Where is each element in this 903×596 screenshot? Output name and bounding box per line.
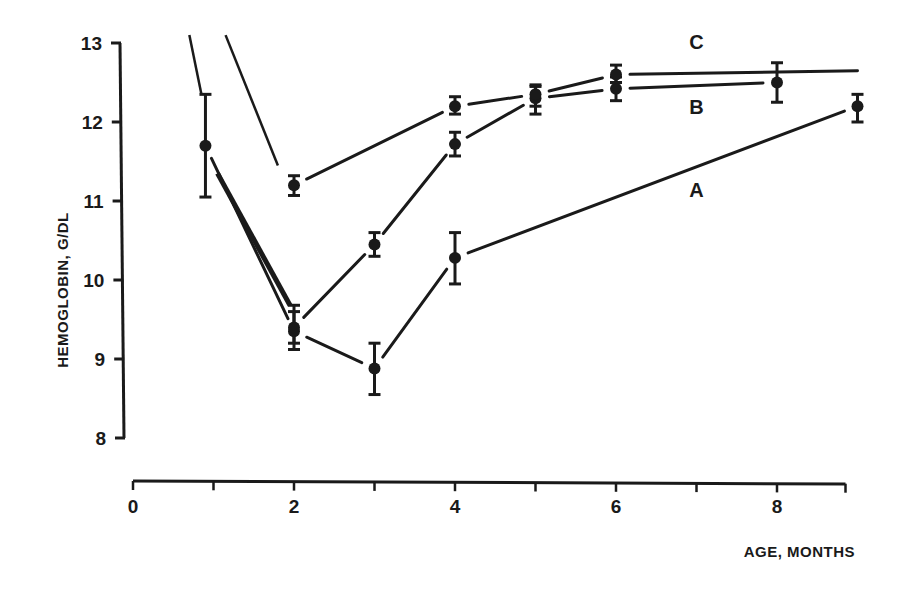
lead-in-line xyxy=(226,35,278,165)
y-tick-label: 9 xyxy=(95,349,106,370)
hemoglobin-chart: 8910111213 02468 ABC HEMOGLOBIN, G/DL AG… xyxy=(0,0,903,596)
series-segment xyxy=(307,112,443,179)
data-point-marker xyxy=(199,140,211,152)
data-point-marker xyxy=(610,83,622,95)
x-axis: 02468 xyxy=(128,481,846,517)
data-point-marker xyxy=(288,321,300,333)
series-label-b: B xyxy=(689,96,703,118)
series-b: B xyxy=(218,63,783,343)
data-point-marker xyxy=(369,362,381,374)
series-segment xyxy=(467,105,523,137)
series-segment xyxy=(630,83,763,88)
series-a: A xyxy=(189,35,863,394)
x-tick-label: 0 xyxy=(128,496,139,517)
y-axis: 8910111213 xyxy=(81,33,125,449)
series-segment xyxy=(469,96,522,104)
x-tick-label: 8 xyxy=(772,496,783,517)
data-point-marker xyxy=(288,179,300,191)
x-tick-label: 4 xyxy=(450,496,461,517)
x-tick-label: 2 xyxy=(289,496,300,517)
series-segment xyxy=(549,78,602,91)
y-axis-title: HEMOGLOBIN, G/DL xyxy=(54,212,71,368)
series-segment xyxy=(549,90,602,96)
y-tick-label: 10 xyxy=(83,270,104,291)
lead-in-line xyxy=(218,173,290,305)
series-layer: ABC xyxy=(189,31,863,394)
data-point-marker xyxy=(449,100,461,112)
series-segment xyxy=(468,111,844,253)
x-axis-title: AGE, MONTHS xyxy=(744,543,855,560)
data-point-marker xyxy=(449,252,461,264)
series-segment xyxy=(630,71,858,75)
data-point-marker xyxy=(610,69,622,81)
series-label-c: C xyxy=(689,31,703,53)
y-tick-label: 12 xyxy=(82,112,103,133)
series-segment xyxy=(304,254,365,317)
series-segment xyxy=(383,269,447,357)
data-point-marker xyxy=(369,238,381,250)
series-segment xyxy=(383,155,446,233)
y-tick-label: 8 xyxy=(95,428,106,449)
data-point-marker xyxy=(771,77,783,89)
y-tick-label: 13 xyxy=(81,33,102,54)
series-c: C xyxy=(226,31,858,195)
x-tick-label: 6 xyxy=(611,496,622,517)
series-segment xyxy=(307,337,362,362)
y-tick-label: 11 xyxy=(84,191,105,212)
series-label-a: A xyxy=(689,179,703,201)
data-point-marker xyxy=(449,138,461,150)
data-point-marker xyxy=(852,100,864,112)
data-point-marker xyxy=(530,88,542,100)
lead-in-line xyxy=(189,35,201,94)
